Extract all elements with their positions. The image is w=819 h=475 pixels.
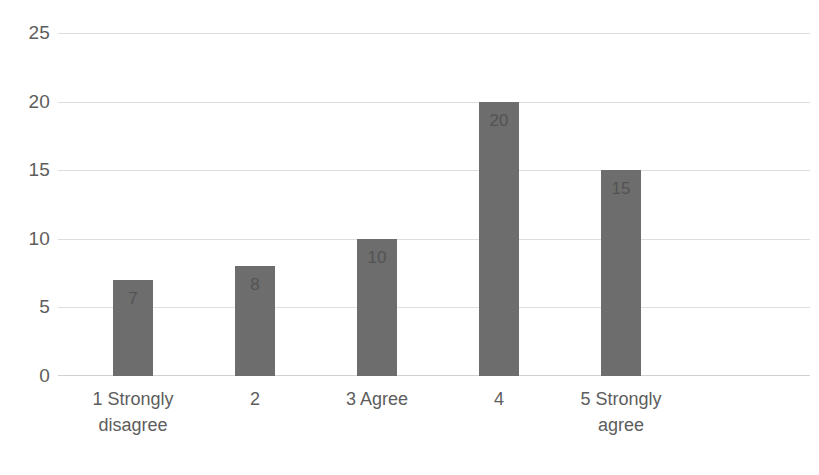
bar-value-4: 20 [479,111,519,131]
x-label-5-line2: agree [560,412,682,438]
gridline-baseline-0 [58,375,810,376]
gridline-15 [58,170,810,171]
x-label-4-line1: 4 [438,386,560,412]
x-axis: 1 Strongly disagree 2 3 Agree 4 5 Strong… [58,386,810,456]
plot-area: 7 8 10 20 15 [58,33,810,376]
bar-value-1: 7 [113,289,153,309]
x-label-3: 3 Agree [316,386,438,412]
bar-value-3: 10 [357,248,397,268]
x-label-1: 1 Strongly disagree [72,386,194,438]
y-tick-25: 25 [4,22,50,44]
bar-value-2: 8 [235,275,275,295]
y-tick-0: 0 [4,365,50,387]
y-axis: 25 20 15 10 5 0 [0,33,50,376]
x-label-5-line1: 5 Strongly [560,386,682,412]
x-label-1-line2: disagree [72,412,194,438]
y-tick-10: 10 [4,228,50,250]
x-label-1-line1: 1 Strongly [72,386,194,412]
x-label-2-line1: 2 [194,386,316,412]
bar-value-5: 15 [601,179,641,199]
y-tick-20: 20 [4,91,50,113]
gridline-5 [58,307,810,308]
x-label-3-line1: 3 Agree [316,386,438,412]
gridline-10 [58,239,810,240]
bar-5-strongly-agree[interactable]: 15 [601,170,641,376]
x-label-2: 2 [194,386,316,412]
bar-1-strongly-disagree[interactable]: 7 [113,280,153,376]
y-tick-5: 5 [4,296,50,318]
bar-2[interactable]: 8 [235,266,275,376]
x-label-5: 5 Strongly agree [560,386,682,438]
x-label-4: 4 [438,386,560,412]
bar-chart: 25 20 15 10 5 0 7 8 10 [0,0,819,475]
gridline-25 [58,33,810,34]
bar-3-agree[interactable]: 10 [357,239,397,376]
bar-4[interactable]: 20 [479,102,519,376]
y-tick-15: 15 [4,159,50,181]
gridline-20 [58,102,810,103]
